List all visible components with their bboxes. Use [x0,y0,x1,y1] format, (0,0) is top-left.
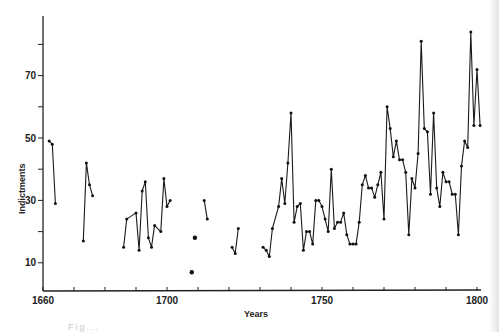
data-point [51,143,54,146]
data-point [141,190,144,193]
data-point [361,183,364,186]
data-point [308,230,311,233]
series-line-segment [49,141,55,203]
data-point [395,140,398,143]
data-point [364,174,367,177]
data-point [472,124,475,127]
data-point [339,221,342,224]
data-point [352,243,355,246]
data-point [435,186,438,189]
data-point [166,205,169,208]
x-tick-label: 1750 [311,295,334,306]
data-point [277,205,280,208]
data-point [414,186,417,189]
data-point [429,193,432,196]
data-point [286,162,289,165]
data-point [317,199,320,202]
data-point [401,158,404,161]
data-point [144,180,147,183]
data-point [451,193,454,196]
data-point [389,127,392,130]
data-point [333,227,336,230]
data-point [122,246,125,249]
indictments-line-chart: 103050701660170017501800 Indictments Yea… [0,0,499,332]
data-point [190,270,194,274]
data-point [410,177,413,180]
data-point [150,246,153,249]
x-axis-title: Years [244,309,268,319]
data-point [370,186,373,189]
data-point [379,171,382,174]
data-point [280,177,283,180]
data-point [479,124,482,127]
data-point [348,243,351,246]
data-point [330,168,333,171]
data-point [206,218,209,221]
data-point [293,221,296,224]
series-line-segment [124,179,171,251]
data-point [82,240,85,243]
data-point [448,180,451,183]
data-point [355,243,358,246]
data-point [404,171,407,174]
data-point [203,199,206,202]
data-point [314,199,317,202]
data-point [457,233,460,236]
series-line-segment [204,200,207,219]
x-tick-label: 1700 [156,295,179,306]
data-point [367,186,370,189]
data-point [234,252,237,255]
data-point [345,233,348,236]
data-point [296,205,299,208]
data-point [48,140,51,143]
x-tick-label: 1660 [32,295,55,306]
data-point [91,194,94,197]
data-point [237,227,240,230]
data-series [48,30,482,274]
page-edge-shadow [489,0,499,332]
data-point [407,233,410,236]
data-point [417,152,420,155]
series-line-segment [232,229,238,254]
data-point [125,218,128,221]
y-axis-title: Indictments [17,163,27,214]
series-line-segment [263,32,480,257]
data-point [231,246,234,249]
data-point [262,246,265,249]
data-point [398,158,401,161]
data-point [283,202,286,205]
data-point [336,221,339,224]
data-point [445,180,448,183]
data-point [305,230,308,233]
y-tick-label: 10 [25,257,37,268]
data-point [135,211,138,214]
data-point [342,211,345,214]
data-point [432,112,435,115]
data-point [299,202,302,205]
data-point [302,249,305,252]
data-point [386,105,389,108]
data-point [373,196,376,199]
axes: 103050701660170017501800 [25,16,489,306]
data-point [420,40,423,43]
data-point [438,205,441,208]
data-point [469,30,472,33]
data-point [88,183,91,186]
x-tick-label: 1800 [466,295,489,306]
data-point [290,112,293,115]
data-point [159,230,162,233]
y-tick-label: 50 [25,133,37,144]
data-point [311,243,314,246]
data-point [265,249,268,252]
data-point [169,199,172,202]
data-point [392,155,395,158]
data-point [268,255,271,258]
data-point [327,230,330,233]
y-tick-label: 70 [25,70,37,81]
data-point [476,68,479,71]
data-point [147,236,150,239]
data-point [383,218,386,221]
series-line-segment [83,163,92,241]
data-point [358,221,361,224]
data-point [460,165,463,168]
